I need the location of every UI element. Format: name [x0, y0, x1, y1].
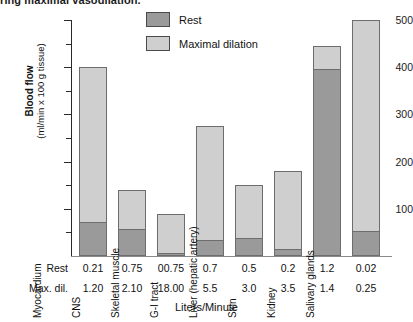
legend-label-maximal-dilation: Maximal dilation: [179, 38, 258, 50]
bar-liver-hepatic-artery: [235, 185, 263, 256]
data-table: Rest 0.210.7500.750.70.50.21.20.02 Max. …: [0, 258, 413, 298]
y-tick-major: [64, 114, 72, 115]
legend: Rest Maximal dilation: [146, 12, 258, 60]
y-tick-minor: [66, 232, 72, 233]
y-tick-minor: [66, 44, 72, 45]
table-cell-rest: 1.2: [320, 258, 335, 278]
bar-cns: [118, 190, 146, 256]
table-cell-rest: 0.02: [356, 258, 376, 278]
y-axis-caption-line1: Blood flow: [24, 11, 35, 171]
table-cell-rest: 0.75: [122, 258, 142, 278]
table-row-label-rest: Rest: [0, 258, 68, 278]
legend-swatch-maximal-dilation: [146, 36, 170, 51]
y-tick-minor: [66, 91, 72, 92]
table-cell-max-dil: 18.00: [158, 278, 184, 298]
bar-skin: [274, 171, 302, 256]
table-cell-rest: 0.21: [83, 258, 103, 278]
y-tick-minor: [66, 138, 72, 139]
y-axis-caption-line2: (ml/min x 100 g tissue): [35, 11, 46, 171]
x-axis-caption: Liters/Minute: [0, 301, 413, 313]
bar-segment-rest: [236, 238, 262, 255]
legend-swatch-rest: [146, 12, 170, 27]
y-tick-major: [64, 162, 72, 163]
table-cell-max-dil: 2.10: [122, 278, 142, 298]
bar-segment-rest: [197, 240, 223, 255]
bar-kidney: [313, 46, 341, 256]
bar-segment-rest: [314, 69, 340, 255]
legend-item-rest: Rest: [146, 12, 258, 27]
table-row-max-dil: Max. dil. 1.202.1018.005.53.03.51.40.25: [0, 278, 413, 298]
y-tick-minor: [66, 185, 72, 186]
legend-item-maximal-dilation: Maximal dilation: [146, 36, 258, 51]
bar-segment-rest: [80, 222, 106, 255]
bar-segment-rest: [275, 249, 301, 255]
bar-segment-rest: [158, 253, 184, 255]
table-cell-max-dil: 1.4: [320, 278, 335, 298]
bar-segment-rest: [353, 231, 379, 255]
table-cell-max-dil: 3.0: [242, 278, 257, 298]
y-tick-major: [64, 67, 72, 68]
y-tick-major: [64, 209, 72, 210]
bar-skeletal-muscle: [157, 214, 185, 256]
table-cell-max-dil: 5.5: [203, 278, 218, 298]
table-cell-rest: 0.5: [242, 258, 257, 278]
table-row-label-max-dil: Max. dil.: [0, 278, 68, 298]
table-cell-rest: 00.75: [158, 258, 184, 278]
x-axis-line: [71, 256, 392, 257]
y-axis-caption: Blood flow (ml/min x 100 g tissue): [24, 11, 46, 171]
table-cell-rest: 0.2: [281, 258, 296, 278]
y-tick-major: [64, 20, 72, 21]
legend-label-rest: Rest: [179, 14, 202, 26]
table-cell-rest: 0.7: [203, 258, 218, 278]
table-cell-max-dil: 3.5: [281, 278, 296, 298]
table-cell-max-dil: 0.25: [356, 278, 376, 298]
chart-figure: ring maximal vasodilation. Blood flow (m…: [0, 0, 413, 322]
bar-g-i-tract: [196, 126, 224, 256]
bar-segment-rest: [119, 229, 145, 255]
table-cell-max-dil: 1.20: [83, 278, 103, 298]
bar-salivary-glands: [352, 20, 380, 256]
bar-myocardium: [79, 67, 107, 256]
table-row-rest: Rest 0.210.7500.750.70.50.21.20.02: [0, 258, 413, 278]
